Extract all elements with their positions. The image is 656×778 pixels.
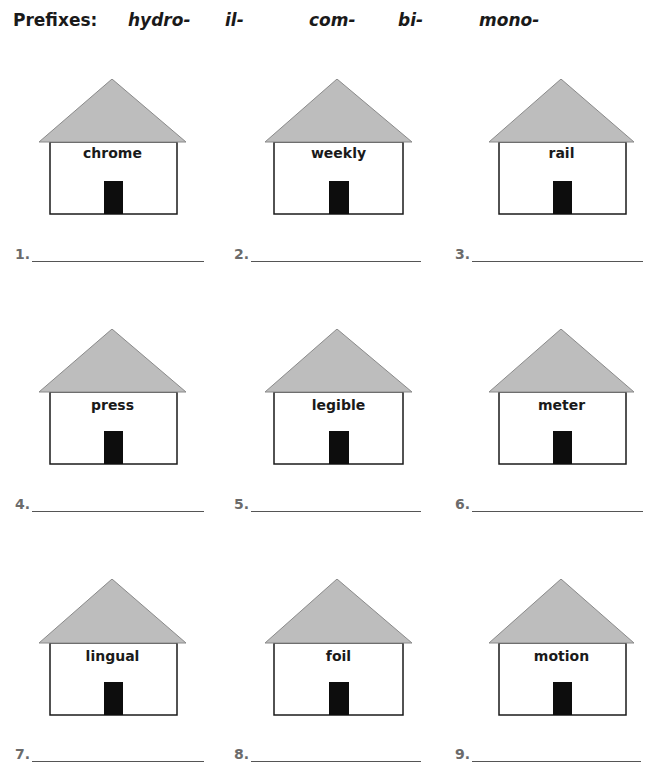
house-2: weekly: [265, 79, 425, 219]
answer-number: 3.: [455, 246, 470, 262]
answer-number: 7.: [15, 746, 30, 762]
prefix-hydro: hydro-: [128, 10, 190, 30]
answer-number: 1.: [15, 246, 30, 262]
answer-number: 2.: [234, 246, 249, 262]
prefix-mono: mono-: [479, 10, 539, 30]
answer-line[interactable]: [251, 511, 421, 512]
answer-number: 9.: [455, 746, 470, 762]
answer-number: 6.: [455, 496, 470, 512]
house-9: motion: [489, 579, 649, 719]
house-word: weekly: [265, 145, 412, 161]
house-word: legible: [265, 397, 412, 413]
house-4: press: [39, 329, 199, 469]
house-5: legible: [265, 329, 425, 469]
answer-line[interactable]: [251, 761, 421, 762]
prefixes-label: Prefixes:: [13, 10, 97, 30]
house-1: chrome: [39, 79, 199, 219]
answer-line[interactable]: [32, 761, 204, 762]
answer-line[interactable]: [472, 761, 641, 762]
house-word: meter: [489, 397, 634, 413]
house-7: lingual: [39, 579, 199, 719]
house-word: rail: [489, 145, 634, 161]
prefix-header: Prefixes: hydro- il- com- bi- mono-: [0, 0, 656, 40]
answer-line[interactable]: [32, 261, 204, 262]
answer-number: 5.: [234, 496, 249, 512]
prefix-com: com-: [309, 10, 356, 30]
house-word: press: [39, 397, 186, 413]
prefix-bi: bi-: [398, 10, 423, 30]
answer-line[interactable]: [32, 511, 204, 512]
answer-line[interactable]: [472, 261, 643, 262]
house-word: foil: [265, 648, 412, 664]
prefix-il: il-: [225, 10, 244, 30]
house-word: lingual: [39, 648, 186, 664]
house-8: foil: [265, 579, 425, 719]
answer-line[interactable]: [472, 511, 643, 512]
house-word: chrome: [39, 145, 186, 161]
house-6: meter: [489, 329, 649, 469]
answer-number: 8.: [234, 746, 249, 762]
house-3: rail: [489, 79, 649, 219]
answer-number: 4.: [15, 496, 30, 512]
answer-line[interactable]: [251, 261, 421, 262]
house-word: motion: [489, 648, 634, 664]
